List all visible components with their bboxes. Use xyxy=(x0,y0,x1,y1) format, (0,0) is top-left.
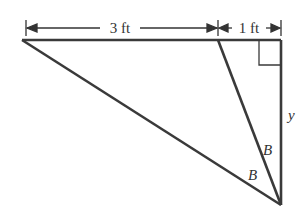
label-angle-b-lower: B xyxy=(248,167,257,183)
triangle-shape xyxy=(22,40,281,205)
arrowhead-left-icon xyxy=(27,24,37,32)
label-y: y xyxy=(286,107,295,123)
right-angle-marker xyxy=(259,40,281,65)
hypotenuse xyxy=(22,40,281,205)
label-angle-b-upper: B xyxy=(263,142,272,158)
label-3ft: 3 ft xyxy=(110,20,131,36)
arrowhead-right-icon xyxy=(207,24,217,32)
arrowhead-right-icon xyxy=(271,24,280,32)
label-1ft: 1 ft xyxy=(239,20,260,36)
arrowhead-left-icon xyxy=(219,24,228,32)
triangle-diagram: 3 ft 1 ft y B B xyxy=(0,0,307,210)
